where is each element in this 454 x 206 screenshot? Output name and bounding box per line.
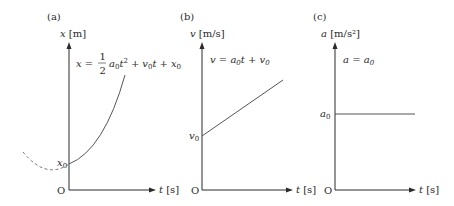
panel-b-origin-label: O (191, 185, 199, 196)
panel-a-position-time: (a) x [m] t [s] O x0 x = 1 2 a0t2+v0t+x0 (23, 11, 181, 196)
panel-c-y-axis-arrow-icon (333, 42, 338, 49)
panel-c-equation: a = a0 (343, 54, 375, 67)
panel-a-y-axis-arrow-icon (67, 42, 72, 49)
panel-a-x-axis-label: t [s] (159, 184, 179, 195)
panel-a-tag: (a) (47, 11, 61, 22)
panel-b-velocity-time: (b) v [m/s] t [s] O v0 v = a0t + v0 (180, 11, 316, 196)
panel-b-x-axis-arrow-icon (286, 188, 293, 193)
panel-b-tag: (b) (180, 11, 194, 22)
panel-c-origin-label: O (324, 185, 332, 196)
panel-c-x-axis-arrow-icon (409, 188, 416, 193)
panel-b-y-axis-label: v [m/s] (190, 28, 225, 39)
panel-c-intercept-label: a0 (320, 108, 330, 121)
panel-a-equation: x = 1 2 a0t2+v0t+x0 (76, 51, 181, 76)
svg-text:x =: x = (76, 58, 93, 69)
panel-a-x-axis-arrow-icon (149, 188, 156, 193)
kinematics-figure: (a) x [m] t [s] O x0 x = 1 2 a0t2+v0t+x0… (0, 0, 454, 206)
panel-b-intercept-label: v0 (189, 130, 199, 143)
panel-c-acceleration-time: (c) a [m/s²] t [s] O a0 a = a0 (313, 11, 439, 196)
svg-text:1: 1 (100, 51, 106, 62)
svg-text:a0t2+v0t+x0: a0t2+v0t+x0 (109, 57, 181, 71)
svg-text:2: 2 (100, 65, 106, 76)
panel-c-x-axis-label: t [s] (419, 184, 439, 195)
panel-a-y-axis-label: x [m] (60, 28, 86, 39)
panel-b-equation: v = a0t + v0 (210, 54, 270, 67)
panel-a-parabola-curve (69, 75, 125, 164)
panel-c-tag: (c) (313, 11, 327, 22)
panel-c-y-axis-label: a [m/s²] (321, 28, 360, 39)
panel-b-x-axis-label: t [s] (296, 184, 316, 195)
panel-a-origin-label: O (57, 185, 65, 196)
panel-b-y-axis-arrow-icon (200, 42, 205, 49)
panel-b-velocity-line (202, 80, 283, 136)
